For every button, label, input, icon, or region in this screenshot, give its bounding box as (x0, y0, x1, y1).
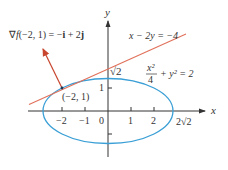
y-axis-label: y (104, 6, 110, 18)
gradient-arrow (43, 49, 62, 88)
point-marker (61, 87, 64, 90)
gradient-ellipse-diagram: y x −2 −1 0 1 2 2√2 1 √2 (−2, 1) x − 2y … (0, 0, 228, 170)
x-tick-label: 1 (128, 115, 133, 126)
x-tick-label: 2 (151, 115, 156, 126)
x-tick-label: −2 (56, 115, 67, 126)
x-axis-label: x (210, 104, 216, 116)
gradient-label: ∇f(−2, 1) = −i + 2j (8, 29, 84, 41)
y-tick-label: 1 (99, 82, 104, 93)
svg-text:x²: x² (146, 62, 155, 73)
tangent-equation: x − 2y = −4 (128, 30, 178, 41)
x-special-label: 2√2 (176, 116, 192, 127)
ellipse-equation: x² 4 + y² = 2 (146, 62, 193, 85)
y-special-label: √2 (110, 65, 122, 77)
svg-text:4: 4 (148, 74, 153, 85)
x-tick-label: −1 (79, 115, 90, 126)
svg-text:+ y² = 2: + y² = 2 (160, 68, 193, 79)
x-tick-label: 0 (99, 115, 104, 126)
point-label: (−2, 1) (62, 91, 89, 103)
